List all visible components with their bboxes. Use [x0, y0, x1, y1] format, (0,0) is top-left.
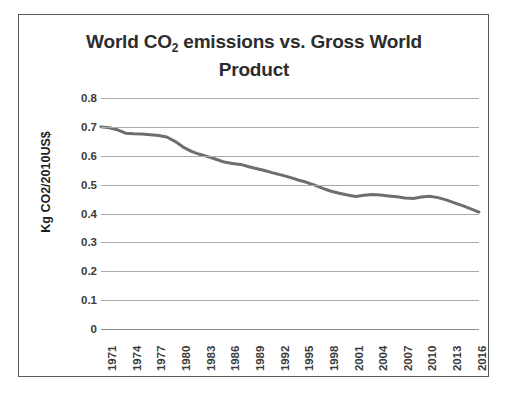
plot-wrapper: Kg CO2/2010US$ 0.80.70.60.50.40.30.20.10…: [19, 15, 490, 378]
x-tick-label: 1998: [328, 346, 340, 371]
y-tick-label: 0.1: [57, 294, 97, 306]
gridline: [101, 127, 479, 128]
y-tick-label: 0.6: [57, 150, 97, 162]
y-axis-tick-labels: 0.80.70.60.50.40.30.20.10: [57, 15, 97, 378]
x-tick-label: 1989: [254, 346, 266, 371]
x-tick-label: 2001: [353, 346, 365, 371]
page-artifact: [22, 382, 172, 391]
x-tick-label: 1971: [106, 346, 118, 371]
y-tick-label: 0.2: [57, 265, 97, 277]
x-tick-label: 2016: [476, 346, 488, 371]
y-tick-label: 0.3: [57, 236, 97, 248]
x-tick-label: 1974: [131, 346, 143, 371]
plot-area: [101, 98, 479, 329]
gridline: [101, 98, 479, 99]
gridline: [101, 329, 479, 330]
gridline: [101, 214, 479, 215]
y-tick-label: 0.8: [57, 92, 97, 104]
y-tick-label: 0.4: [57, 208, 97, 220]
gridline: [101, 271, 479, 272]
x-tick-label: 2007: [402, 346, 414, 371]
x-tick-label: 2010: [426, 346, 438, 371]
gridline: [101, 242, 479, 243]
x-tick-label: 1983: [205, 346, 217, 371]
y-tick-label: 0.7: [57, 121, 97, 133]
x-tick-label: 1992: [279, 346, 291, 371]
y-tick-label: 0.5: [57, 179, 97, 191]
x-tick-label: 1977: [155, 346, 167, 371]
x-tick-label: 1986: [229, 346, 241, 371]
gridline: [101, 300, 479, 301]
gridline: [101, 185, 479, 186]
x-tick-label: 1980: [180, 346, 192, 371]
x-tick-label: 2013: [451, 346, 463, 371]
x-tick-label: 2004: [377, 346, 389, 371]
gridline: [101, 156, 479, 157]
chart-frame: World CO2 emissions vs. Gross World Prod…: [18, 14, 489, 377]
y-axis-title: Kg CO2/2010US$: [39, 112, 53, 252]
y-tick-label: 0: [57, 323, 97, 335]
x-tick-label: 1995: [303, 346, 315, 371]
